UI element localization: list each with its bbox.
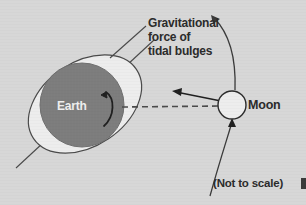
force-label-line-1: Gravitational <box>148 16 219 30</box>
earth-moon-dashed-line <box>122 106 222 107</box>
earth-label: Earth <box>57 99 87 113</box>
tidal-bulge-diagram: Gravitational force of tidal bulges Eart… <box>0 0 306 205</box>
force-label-line-3: tidal bulges <box>148 44 219 58</box>
moon-circle <box>218 91 246 119</box>
gravitational-force-arrowhead <box>172 88 182 96</box>
not-to-scale-note: (Not to scale) <box>213 176 283 190</box>
force-label-leader-line <box>110 26 146 58</box>
force-label-line-2: force of <box>148 30 219 44</box>
edge-artifact <box>301 178 306 189</box>
moon-label: Moon <box>248 98 281 112</box>
gravitational-force-label: Gravitational force of tidal bulges <box>148 16 219 58</box>
